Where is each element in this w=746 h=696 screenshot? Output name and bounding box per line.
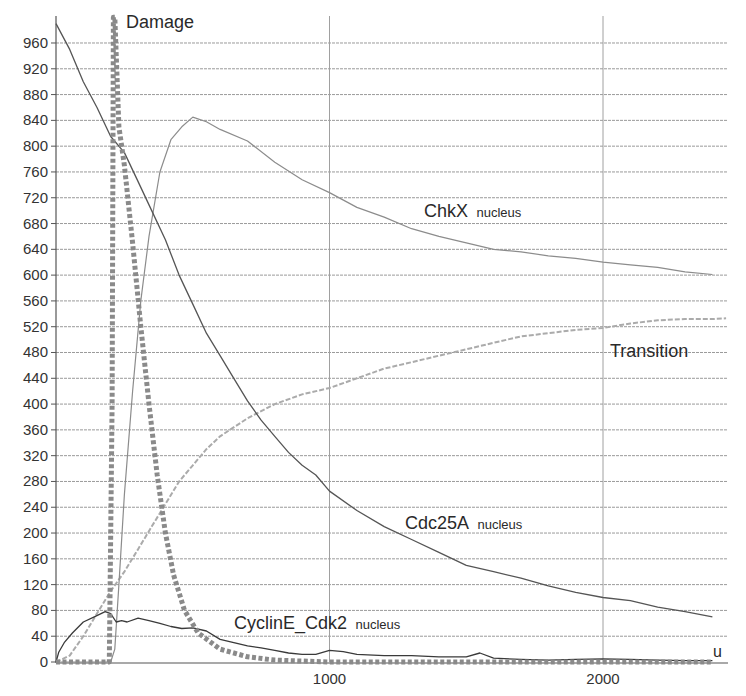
x-tick-label: 2000 xyxy=(586,670,619,687)
damage-series xyxy=(56,17,712,662)
chkx-label: ChkX nucleus xyxy=(424,201,522,221)
cdc25a-label-main: Cdc25A xyxy=(405,513,469,533)
x-tick-label: 1000 xyxy=(313,670,346,687)
y-tick-label: 760 xyxy=(23,163,48,180)
y-tick-label: 200 xyxy=(23,524,48,541)
y-tick-label: 80 xyxy=(31,601,48,618)
cdc25a-label: Cdc25A nucleus xyxy=(405,513,523,533)
x-axis-tick-labels: 10002000 xyxy=(313,670,620,687)
y-tick-label: 40 xyxy=(31,627,48,644)
y-axis-tick-labels: 0408012016020024028032036040044048052056… xyxy=(23,34,56,670)
y-tick-label: 720 xyxy=(23,189,48,206)
y-tick-label: 880 xyxy=(23,86,48,103)
chkx-label-sub: nucleus xyxy=(476,205,521,220)
y-tick-label: 240 xyxy=(23,498,48,515)
line-chart: 0408012016020024028032036040044048052056… xyxy=(0,0,746,696)
y-tick-label: 800 xyxy=(23,137,48,154)
y-tick-label: 840 xyxy=(23,111,48,128)
y-tick-label: 520 xyxy=(23,318,48,335)
y-tick-label: 600 xyxy=(23,266,48,283)
y-tick-label: 160 xyxy=(23,550,48,567)
y-tick-label: 360 xyxy=(23,421,48,438)
y-tick-label: 680 xyxy=(23,215,48,232)
horizontal-gridlines xyxy=(56,43,728,636)
series-group xyxy=(56,17,726,662)
chkx-nucleus-series xyxy=(56,117,712,662)
x-axis-unit-label: u xyxy=(713,643,722,660)
cdc25a-nucleus-series xyxy=(56,24,712,617)
y-tick-label: 120 xyxy=(23,576,48,593)
y-tick-label: 440 xyxy=(23,369,48,386)
y-tick-label: 480 xyxy=(23,343,48,360)
transition-label: Transition xyxy=(610,341,688,361)
y-tick-label: 320 xyxy=(23,447,48,464)
cdc25a-label-sub: nucleus xyxy=(478,517,523,532)
y-tick-label: 400 xyxy=(23,395,48,412)
y-tick-label: 0 xyxy=(40,653,48,670)
y-tick-label: 640 xyxy=(23,240,48,257)
y-tick-label: 560 xyxy=(23,292,48,309)
y-tick-label: 920 xyxy=(23,60,48,77)
y-tick-label: 280 xyxy=(23,472,48,489)
cycline-label-sub: nucleus xyxy=(356,617,401,632)
chkx-label-main: ChkX xyxy=(424,201,468,221)
cycline-label-main: CyclinE_Cdk2 xyxy=(234,613,347,634)
damage-label: Damage xyxy=(126,12,194,32)
y-tick-label: 960 xyxy=(23,34,48,51)
cycline-label: CyclinE_Cdk2 nucleus xyxy=(234,613,401,634)
